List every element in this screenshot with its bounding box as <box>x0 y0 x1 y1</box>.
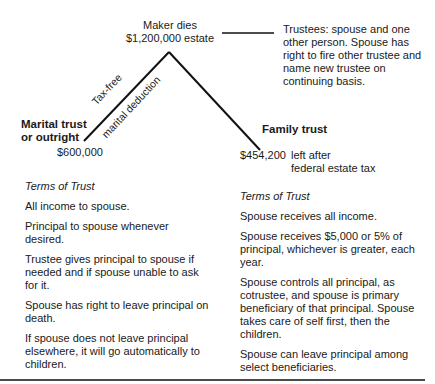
right-terms-heading: Terms of Trust <box>240 190 420 202</box>
left-title-line1: Marital trust <box>21 118 87 131</box>
left-term-item: Trustee gives principal to spouse if nee… <box>25 253 210 292</box>
right-term-item: Spouse controls all principal, as cotrus… <box>240 276 420 341</box>
left-trust-title: Marital trust or outright <box>21 118 87 144</box>
root-line2: $1,200,000 estate <box>120 32 220 45</box>
right-term-item: Spouse receives all income. <box>240 210 420 223</box>
right-amount: $454,200 <box>240 149 286 162</box>
left-term-item: All income to spouse. <box>25 200 210 213</box>
right-term-item: Spouse receives $5,000 or 5% of principa… <box>240 230 420 269</box>
right-terms: Terms of Trust Spouse receives all incom… <box>240 190 420 381</box>
left-title-line2: or outright <box>21 131 87 144</box>
right-amount-note-line1: left after <box>291 149 375 162</box>
right-trust-title: Family trust <box>262 123 327 136</box>
right-branch-line <box>169 52 260 150</box>
left-term-item: If spouse does not leave principal elsew… <box>25 332 210 371</box>
root-line1: Maker dies <box>120 19 220 32</box>
left-term-item: Spouse has right to leave principal on d… <box>25 299 210 325</box>
right-amount-note-line2: federal estate tax <box>291 162 375 175</box>
left-terms-heading: Terms of Trust <box>25 180 210 192</box>
left-terms: Terms of Trust All income to spouse. Pri… <box>25 180 210 378</box>
left-term-item: Principal to spouse whenever desired. <box>25 220 210 246</box>
left-amount: $600,000 <box>57 146 103 159</box>
trustees-note: Trustees: spouse and one other person. S… <box>283 23 423 88</box>
right-term-item: Spouse can leave principal among select … <box>240 348 420 374</box>
right-amount-note: left after federal estate tax <box>291 149 375 175</box>
root-node: Maker dies $1,200,000 estate <box>120 19 220 45</box>
